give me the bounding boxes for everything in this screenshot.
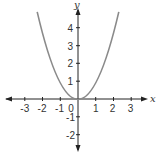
y-tick-label: -2 xyxy=(66,130,75,141)
x-tick-label: -3 xyxy=(20,103,29,114)
y-tick-label: 4 xyxy=(67,23,73,34)
x-axis-arrow-left-icon xyxy=(5,97,12,102)
y-tick-label: 1 xyxy=(67,76,73,87)
x-tick-label: 1 xyxy=(93,103,99,114)
y-axis-label: y xyxy=(73,0,80,10)
parabola-chart: -3 -2 -1 0 1 2 3 4 3 2 1 -1 -2 x y xyxy=(0,0,157,157)
y-axis-arrow-down-icon xyxy=(76,145,81,152)
x-tick-label: 3 xyxy=(128,103,134,114)
x-tick-label: -2 xyxy=(38,103,47,114)
y-tick-label: 2 xyxy=(67,58,73,69)
x-tick-label: -1 xyxy=(55,103,64,114)
x-axis-arrow-right-icon xyxy=(141,97,148,102)
x-tick-label: 2 xyxy=(110,103,116,114)
y-tick-label: 3 xyxy=(67,41,73,52)
y-tick-label: -1 xyxy=(66,112,75,123)
x-axis-label: x xyxy=(150,93,156,104)
